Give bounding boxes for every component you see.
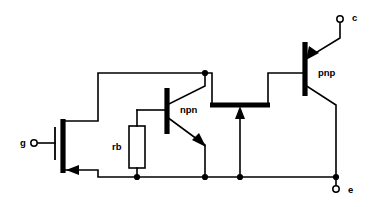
- collector-terminal-label: c: [352, 12, 357, 23]
- circuit-schematic-svg: npn pnp rb g: [0, 0, 373, 207]
- wire-npn-emitter-lead: [167, 117, 205, 177]
- gate-terminal-label: g: [20, 137, 26, 148]
- circuit-diagram-figure: npn pnp rb g: [0, 0, 373, 207]
- emitter-terminal-icon[interactable]: [333, 186, 339, 192]
- resistor-rb-label: rb: [112, 141, 122, 152]
- node-rb-bottom: [134, 174, 140, 180]
- body-region-symbol: [210, 105, 270, 119]
- resistor-rb-body: [129, 126, 145, 168]
- wire-body-bar-left-riser: [205, 73, 212, 106]
- mosfet-symbol: [55, 119, 79, 175]
- wire-mosfet-source-down: [63, 170, 336, 177]
- node-top-npn-collector: [202, 70, 208, 76]
- resistor-rb-symbol: rb: [112, 126, 145, 168]
- npn-emitter-arrow-icon: [192, 133, 206, 147]
- node-emitter-rail: [333, 174, 339, 180]
- npn-label: npn: [180, 104, 198, 115]
- wire-body-bar-right-riser: [268, 73, 305, 106]
- emitter-terminal-label: e: [348, 184, 353, 195]
- node-npn-emitter-bottom: [202, 174, 208, 180]
- wire-pnp-collector-lead: [305, 85, 336, 177]
- gate-terminal-icon[interactable]: [31, 140, 37, 146]
- body-region-arrow-icon: [235, 106, 245, 119]
- npn-transistor-symbol: npn: [167, 88, 206, 147]
- node-body-bottom: [237, 174, 243, 180]
- mosfet-source-arrow-icon: [66, 165, 79, 175]
- pnp-emitter-arrow-icon: [306, 46, 319, 60]
- collector-terminal-icon[interactable]: [337, 16, 343, 22]
- pnp-label: pnp: [318, 67, 336, 78]
- wire-npn-collector-lead: [167, 73, 205, 105]
